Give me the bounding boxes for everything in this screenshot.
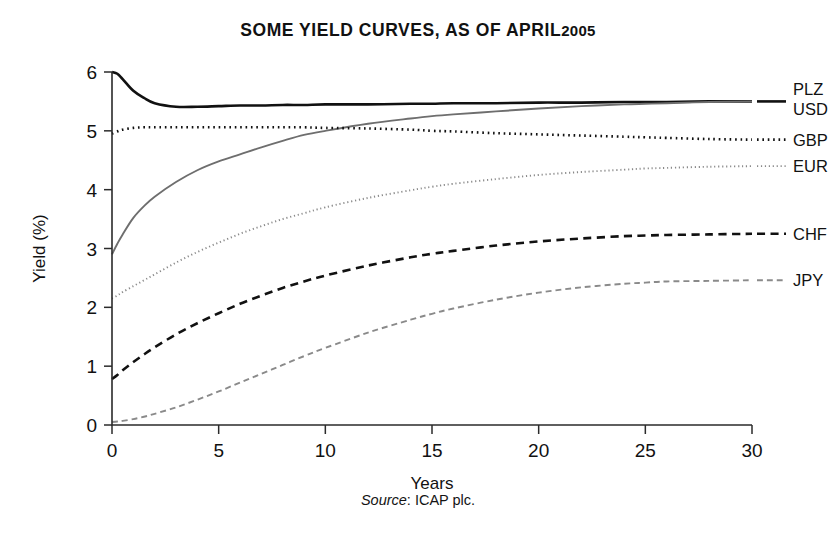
y-tick-label: 1 <box>86 356 97 377</box>
series-line-eur <box>112 166 752 298</box>
x-tick-label: 15 <box>421 440 442 461</box>
legend-label-jpy: JPY <box>793 271 823 289</box>
source-value: : ICAP plc. <box>407 492 475 508</box>
series-line-jpy <box>112 280 752 422</box>
y-tick-label: 2 <box>86 297 97 318</box>
y-tick-label: 4 <box>86 180 97 201</box>
x-tick-label: 20 <box>528 440 549 461</box>
legend-label-plz: PLZ <box>793 80 823 98</box>
y-axis-title: Yield (%) <box>30 214 49 282</box>
source-label: Source <box>361 492 407 508</box>
y-tick-label: 5 <box>86 121 97 142</box>
legend-label-eur: EUR <box>793 157 828 175</box>
yield-curve-figure: SOME YIELD CURVES, AS OF APRIL2005 01234… <box>0 0 836 537</box>
x-tick-label: 30 <box>741 440 762 461</box>
legend-label-gbp: GBP <box>793 131 828 149</box>
series-line-chf <box>112 234 752 379</box>
series-line-usd <box>112 101 752 254</box>
chart-legend: PLZUSDGBPEURCHFJPY <box>757 80 828 289</box>
y-tick-label: 6 <box>86 62 97 83</box>
source-note: Source: ICAP plc. <box>0 492 836 508</box>
x-tick-label: 0 <box>107 440 118 461</box>
x-tick-label: 5 <box>213 440 224 461</box>
series-line-plz <box>112 72 752 107</box>
x-axis-title: Years <box>411 474 454 493</box>
legend-label-usd: USD <box>793 100 828 118</box>
series-line-gbp <box>112 127 752 139</box>
x-tick-label: 10 <box>315 440 336 461</box>
x-tick-label: 25 <box>635 440 656 461</box>
legend-label-chf: CHF <box>793 225 827 243</box>
axes-layer: 0123456051015202530 <box>86 62 762 461</box>
chart-plot-area: 0123456051015202530 PLZUSDGBPEURCHFJPY Y… <box>0 0 836 537</box>
y-tick-label: 0 <box>86 415 97 436</box>
series-layer <box>112 72 752 422</box>
y-tick-label: 3 <box>86 239 97 260</box>
